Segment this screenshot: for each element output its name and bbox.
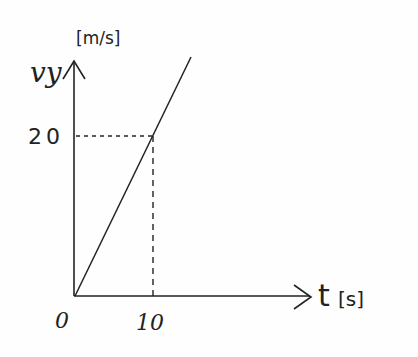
x-axis-unit: [s] [338,287,364,311]
origin-label: 0 [55,308,69,333]
x-axis-arrow-icon [294,285,311,309]
y-axis-symbol: vy [30,56,63,89]
y-axis-unit: [m/s] [76,28,120,48]
series-line-vy [75,57,191,296]
x-axis-symbol: t [318,278,330,313]
x-tick-label-10: 10 [136,310,164,335]
y-tick-label-20: 20 [28,124,64,149]
chart-canvas: vy [m/s] t [s] 0 10 20 [0,0,418,357]
velocity-time-graph: vy [m/s] t [s] 0 10 20 [0,0,418,357]
